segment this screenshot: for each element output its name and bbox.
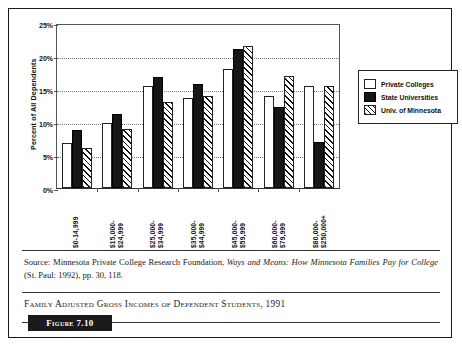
legend-swatch-uofm — [364, 105, 376, 115]
bar-private — [304, 86, 314, 188]
x-axis-label-cell: $80,000-$250,000+ — [299, 192, 340, 248]
legend-label: State Universities — [381, 94, 438, 101]
x-axis-label: $80,000- — [312, 192, 320, 248]
y-axis-tick-label: 0% — [43, 187, 53, 194]
bar-state — [112, 114, 122, 188]
x-axis-label-cell: $35,000-$44,999 — [178, 192, 219, 248]
bar-group — [97, 25, 137, 188]
source-suffix: (St. Paul: 1992), pp. 30, 118. — [24, 270, 123, 280]
y-axis-title: Percent of All Dependents — [26, 44, 40, 164]
bar-groups — [57, 25, 339, 188]
figure-number-badge: Figure 7.10 — [28, 315, 112, 331]
legend-item-uofm: Univ. of Minnesota — [364, 105, 452, 115]
x-axis-label-cell: $25,000-$34,999 — [137, 192, 178, 248]
bar-group — [258, 25, 298, 188]
x-axis-label: $60,000- — [271, 192, 279, 248]
legend-label: Private Colleges — [381, 81, 434, 88]
divider-above-source — [22, 250, 440, 251]
x-axis-label: $24,999 — [117, 192, 125, 248]
bar-private — [143, 86, 153, 188]
bar-state — [72, 130, 82, 188]
bar-uofm — [82, 148, 92, 188]
y-axis-tick-label: 10% — [39, 121, 53, 128]
bar-uofm — [163, 102, 173, 188]
y-axis-tick-label: 15% — [39, 88, 53, 95]
bar-group — [218, 25, 258, 188]
chart-legend: Private CollegesState UniversitiesUniv. … — [358, 70, 458, 124]
y-axis-tick-label: 20% — [39, 55, 53, 62]
bar-private — [102, 123, 112, 188]
x-axis-label-cell: $0-14,999 — [56, 192, 97, 248]
legend-item-private: Private Colleges — [364, 79, 452, 89]
legend-item-state: State Universities — [364, 92, 452, 102]
bar-group — [178, 25, 218, 188]
bar-state — [233, 49, 243, 188]
x-axis-label-cell: $60,000-$79,999 — [259, 192, 300, 248]
y-axis-tick — [54, 190, 58, 191]
x-axis-label: $250,000+ — [320, 192, 328, 248]
bar-private — [223, 69, 233, 188]
source-title: Ways and Means: How Minnesota Families P… — [227, 257, 438, 267]
y-axis-tick-label: 5% — [43, 154, 53, 161]
y-axis-tick-label: 25% — [39, 22, 53, 29]
bar-group — [299, 25, 339, 188]
divider-below-source — [22, 292, 440, 293]
x-axis-label: $59,999 — [239, 192, 247, 248]
bar-chart: Percent of All Dependents 0%5%10%15%20%2… — [22, 14, 440, 246]
source-prefix: Source: Minnesota Private College Resear… — [24, 257, 227, 267]
bar-group — [138, 25, 178, 188]
bar-uofm — [284, 76, 294, 188]
bar-uofm — [203, 96, 213, 188]
bar-state — [193, 84, 203, 188]
bar-state — [274, 107, 284, 188]
x-axis-label: $44,999 — [198, 192, 206, 248]
x-axis-label: $35,000- — [190, 192, 198, 248]
figure-number-label: Figure 7.10 — [46, 318, 94, 328]
legend-swatch-private — [364, 79, 376, 89]
x-axis-label: $34,999 — [157, 192, 165, 248]
x-axis-label: $45,000- — [231, 192, 239, 248]
x-axis-label: $0-14,999 — [72, 192, 80, 248]
figure-card: Percent of All Dependents 0%5%10%15%20%2… — [0, 0, 462, 352]
bar-private — [183, 98, 193, 188]
x-axis-label: $15,000- — [109, 192, 117, 248]
bar-group — [57, 25, 97, 188]
bar-private — [264, 96, 274, 188]
x-axis-label-cell: $45,000-$59,999 — [218, 192, 259, 248]
figure-caption: Family Adjusted Gross Incomes of Depende… — [24, 299, 438, 309]
bar-state — [153, 77, 163, 188]
x-axis-labels: $0-14,999$15,000-$24,999$25,000-$34,999$… — [56, 192, 340, 248]
source-note: Source: Minnesota Private College Resear… — [24, 256, 438, 281]
bar-uofm — [122, 129, 132, 188]
bar-uofm — [324, 86, 334, 188]
bar-uofm — [243, 46, 253, 188]
x-axis-label-cell: $15,000-$24,999 — [97, 192, 138, 248]
legend-label: Univ. of Minnesota — [381, 107, 441, 114]
bar-state — [314, 142, 324, 188]
bar-private — [62, 143, 72, 188]
plot-area: 0%5%10%15%20%25% — [56, 24, 340, 189]
legend-swatch-state — [364, 92, 376, 102]
x-axis-label: $79,999 — [279, 192, 287, 248]
